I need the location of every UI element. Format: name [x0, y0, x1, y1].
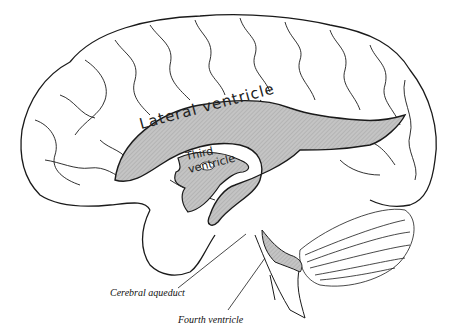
cerebrum-outline	[21, 15, 436, 275]
cerebellum	[300, 209, 414, 286]
aqueduct-leader	[178, 234, 246, 288]
brain-ventricles-diagram: Lateral ventricle Third ventricle Cerebr…	[0, 0, 452, 334]
fourth-ventricle-label: Fourth ventricle	[178, 314, 243, 325]
fourth-ventricle-leader	[228, 258, 265, 310]
brainstem	[255, 235, 305, 318]
cerebral-aqueduct-label: Cerebral aqueduct	[110, 287, 185, 298]
